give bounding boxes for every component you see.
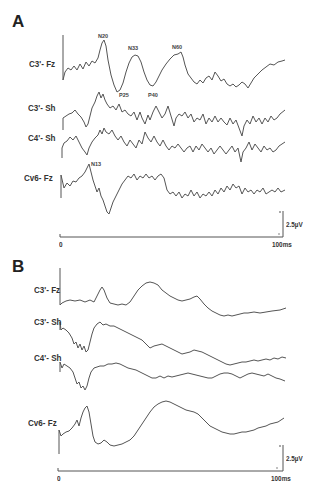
amplitude-scale-label-a: 2.5µV [286, 220, 303, 229]
peak-label-p25: P25 [119, 92, 129, 98]
scale-bar-b [58, 445, 283, 471]
scale-bar-a [60, 211, 283, 237]
trace-b-c3-sh [60, 322, 286, 365]
channel-label-b-c4-sh: C4'- Sh [34, 352, 62, 363]
peak-label-n60: N60 [172, 44, 182, 50]
peak-label-n20: N20 [98, 33, 108, 39]
trace-a-c3-sh [63, 92, 285, 136]
amplitude-scale-label-b: 2.5µV [286, 454, 303, 463]
channel-label-b-c3-fz: C3'- Fz [34, 284, 60, 295]
trace-b-cv6-fz [59, 401, 284, 454]
time-start-label-b: 0 [57, 474, 61, 483]
trace-b-c4-sh [60, 362, 285, 390]
trace-a-cv6-fz [61, 164, 285, 214]
channel-label-a-c3-sh: C3'- Sh [28, 102, 56, 113]
channel-label-a-c3-fz: C3'- Fz [29, 58, 55, 69]
trace-a-c4-sh [62, 128, 285, 162]
channel-label-b-cv6-fz: Cv6- Fz [28, 417, 57, 428]
peak-label-n33: N33 [128, 45, 138, 51]
trace-b-c3-fz [60, 268, 286, 316]
channel-label-a-c4-sh: C4'- Sh [28, 132, 56, 143]
time-end-label-b: 100ms [271, 474, 291, 483]
channel-label-a-cv6-fz: Cv6- Fz [24, 172, 53, 183]
time-end-label-a: 100ms [272, 240, 292, 249]
channel-label-b-c3-sh: C3'- Sh [34, 316, 62, 327]
panel-label-b: B [12, 257, 24, 277]
peak-label-n13: N13 [91, 161, 101, 167]
panel-label-a: A [12, 12, 24, 32]
peak-label-p40: P40 [148, 92, 158, 98]
sep-figure: A C3'- Fz C3'- Sh C4'- Sh Cv6- Fz N20 N3… [0, 0, 321, 494]
time-start-label-a: 0 [59, 240, 63, 249]
